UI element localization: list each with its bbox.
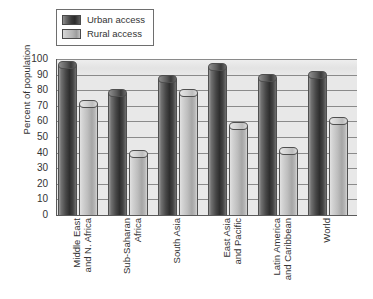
bar-body <box>129 154 148 215</box>
y-axis-tick-label: 40 <box>37 148 48 158</box>
bar-top-cap <box>79 100 98 108</box>
bar-urban-3 <box>208 63 227 215</box>
bar-body <box>208 67 227 215</box>
bar-top-cap <box>279 147 298 155</box>
y-axis-tick-label: 70 <box>37 101 48 111</box>
bar-top-cap <box>308 71 327 79</box>
bar-body <box>158 79 177 215</box>
bar-urban-1 <box>108 89 127 215</box>
bar-body <box>308 75 327 215</box>
legend-item-rural-access: Rural access <box>62 27 149 41</box>
legend-label-urban-access: Urban access <box>87 15 145 25</box>
x-axis-category-labels: Middle Eastand N. AfricaSub-SaharanAfric… <box>56 216 356 298</box>
chart-legend: Urban access Rural access <box>56 9 154 46</box>
bar-top-cap <box>179 89 198 97</box>
bar-top-cap <box>329 117 348 125</box>
bar-rural-1 <box>129 150 148 215</box>
y-axis-tick-label: 80 <box>37 85 48 95</box>
bar-rural-0 <box>79 100 98 215</box>
bar-body <box>329 121 348 215</box>
y-axis-tick-label: 60 <box>37 116 48 126</box>
bar-body <box>79 104 98 215</box>
bar-body <box>279 151 298 215</box>
bar-top-cap <box>58 61 77 69</box>
y-axis-tick-label: 90 <box>37 70 48 80</box>
y-axis-tick-label: 20 <box>37 179 48 189</box>
urban-cylinder-swatch <box>62 15 81 25</box>
y-axis-tick-labels: 1009080706050403020100 <box>0 59 52 215</box>
x-axis-category-label: Sub-SaharanAfrica <box>121 218 135 299</box>
bar-body <box>58 65 77 215</box>
bar-body <box>108 93 127 215</box>
plot-area <box>56 59 357 216</box>
bar-rural-5 <box>329 117 348 215</box>
bar-urban-2 <box>158 75 177 215</box>
bar-top-cap <box>129 150 148 158</box>
y-axis-tick-label: 10 <box>37 194 48 204</box>
bar-top-cap <box>208 63 227 71</box>
legend-item-urban-access: Urban access <box>62 13 149 27</box>
bar-top-cap <box>229 122 248 130</box>
y-axis-tick-label: 100 <box>31 54 48 64</box>
legend-label-rural-access: Rural access <box>87 29 142 39</box>
bar-rural-4 <box>279 147 298 215</box>
bar-body <box>258 78 277 215</box>
bar-urban-5 <box>308 71 327 215</box>
bar-top-cap <box>258 74 277 82</box>
y-axis-tick-label: 50 <box>37 132 48 142</box>
x-axis-category-label: Latin Americaand Caribbean <box>271 218 285 299</box>
rural-cylinder-swatch <box>62 29 81 39</box>
bar-urban-0 <box>58 61 77 215</box>
y-axis-tick-label: 30 <box>37 163 48 173</box>
bar-body <box>229 126 248 215</box>
x-axis-category-label: East Asiaand Pacific <box>221 218 235 299</box>
bar-series-container <box>57 59 357 215</box>
bar-rural-3 <box>229 122 248 215</box>
bar-urban-4 <box>258 74 277 215</box>
bar-body <box>179 93 198 215</box>
bar-rural-2 <box>179 89 198 215</box>
x-axis-category-label: South Asia <box>171 218 185 299</box>
y-axis-tick-label: 0 <box>42 210 48 220</box>
x-axis-category-label: World <box>321 218 335 299</box>
x-axis-category-label: Middle Eastand N. Africa <box>71 218 85 299</box>
bar-top-cap <box>108 89 127 97</box>
bar-chart-figure: Urban access Rural access Percent of pop… <box>0 0 373 299</box>
bar-top-cap <box>158 75 177 83</box>
